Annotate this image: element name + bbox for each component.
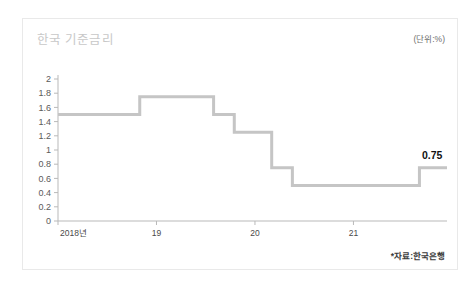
y-tick-label: 1.6 [38, 103, 51, 113]
y-tick-label: 0.8 [38, 159, 51, 169]
x-tick-label: 21 [349, 228, 359, 238]
screenshot-root: 한국 기준금리 (단위:%) 21.81.61.41.210.80.60.40.… [0, 0, 475, 294]
y-tick-label: 0.2 [38, 202, 51, 212]
data-series [58, 97, 447, 186]
series-line [58, 97, 447, 186]
y-tick-label: 1.4 [38, 117, 51, 127]
y-tick-label: 2 [46, 74, 51, 84]
y-tick-label: 0.6 [38, 174, 51, 184]
y-tick-label: 0.4 [38, 188, 51, 198]
value-annotation: 0.75 [422, 149, 443, 161]
x-tick-label: 2018년 [60, 228, 87, 238]
y-tick-label: 0 [46, 216, 51, 226]
y-tick-label: 1 [46, 145, 51, 155]
data-annotations: 0.75 [422, 149, 443, 161]
x-tick-label: 20 [250, 228, 260, 238]
x-axis: 2018년192021 [58, 221, 447, 238]
x-tick-label: 19 [152, 228, 162, 238]
y-tick-label: 1.8 [38, 88, 51, 98]
chart-card: 한국 기준금리 (단위:%) 21.81.61.41.210.80.60.40.… [22, 18, 458, 270]
line-chart-plot: 21.81.61.41.210.80.60.40.20 2018년192021 … [23, 19, 459, 271]
y-axis: 21.81.61.41.210.80.60.40.20 [38, 74, 58, 226]
source-note: *자료:한국은행 [391, 249, 445, 261]
y-tick-label: 1.2 [38, 131, 51, 141]
